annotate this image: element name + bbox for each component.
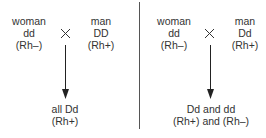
left-arrow-icon [62,45,69,99]
left-cross-icon [61,29,70,38]
diagram-graphics [0,0,266,138]
right-arrow-icon [207,45,214,99]
rh-inheritance-diagram: woman dd (Rh–) man DD (Rh+) all Dd (Rh+)… [0,0,266,138]
right-cross-icon [205,29,214,38]
